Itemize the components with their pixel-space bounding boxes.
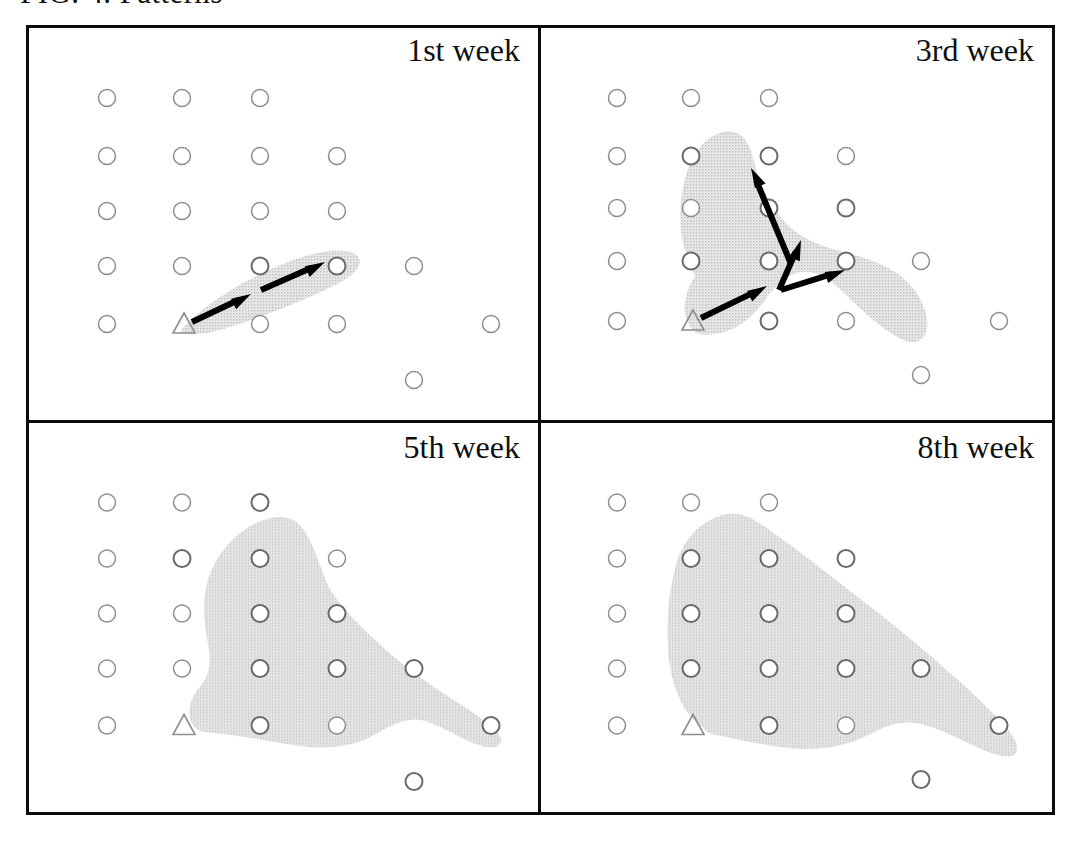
site-node-circle[interactable]	[483, 717, 500, 734]
site-node-circle[interactable]	[252, 717, 269, 734]
site-node-circle[interactable]	[838, 605, 855, 622]
site-node-circle[interactable]	[683, 148, 700, 165]
panel-3rd-week-label: 3rd week	[916, 32, 1034, 69]
panel-8th-week-canvas	[543, 425, 1052, 812]
site-node-circle[interactable]	[991, 717, 1008, 734]
site-node-circle[interactable]	[252, 550, 269, 567]
site-node-circle[interactable]	[99, 717, 116, 734]
site-node-circle[interactable]	[174, 90, 191, 107]
site-node-circle[interactable]	[329, 717, 346, 734]
site-node-circle[interactable]	[838, 200, 855, 217]
site-node-circle[interactable]	[252, 660, 269, 677]
panel-8th-week-label: 8th week	[918, 429, 1034, 466]
site-node-circle[interactable]	[913, 367, 930, 384]
panel-divider-horizontal	[29, 420, 1052, 423]
site-node-circle[interactable]	[329, 203, 346, 220]
site-node-circle[interactable]	[609, 200, 626, 217]
site-node-circle[interactable]	[99, 316, 116, 333]
site-node-circle[interactable]	[683, 660, 700, 677]
site-node-circle[interactable]	[329, 316, 346, 333]
site-node-circle[interactable]	[683, 605, 700, 622]
panel-8th-week[interactable]: 8th week	[543, 425, 1052, 812]
site-node-circle[interactable]	[174, 148, 191, 165]
spread-arrow-shaft	[781, 274, 832, 290]
site-node-circle[interactable]	[913, 660, 930, 677]
site-node-circle[interactable]	[329, 148, 346, 165]
site-node-circle[interactable]	[406, 773, 423, 790]
site-node-circle[interactable]	[838, 550, 855, 567]
site-node-circle[interactable]	[609, 494, 626, 511]
site-node-circle[interactable]	[99, 605, 116, 622]
site-node-circle[interactable]	[329, 258, 346, 275]
site-node-circle[interactable]	[761, 90, 778, 107]
site-node-circle[interactable]	[174, 258, 191, 275]
site-node-circle[interactable]	[329, 660, 346, 677]
site-node-circle[interactable]	[252, 316, 269, 333]
site-node-circle[interactable]	[252, 203, 269, 220]
figure-root: FIG. 4. Patterns 1st week 3rd week 5th w…	[0, 0, 1079, 843]
site-node-circle[interactable]	[252, 605, 269, 622]
site-node-circle[interactable]	[99, 203, 116, 220]
site-node-circle[interactable]	[609, 253, 626, 270]
site-node-circle[interactable]	[406, 258, 423, 275]
site-node-circle[interactable]	[761, 550, 778, 567]
figure-caption-clip: FIG. 4. Patterns	[0, 0, 560, 12]
site-node-circle[interactable]	[761, 148, 778, 165]
site-node-circle[interactable]	[913, 253, 930, 270]
site-node-circle[interactable]	[761, 313, 778, 330]
site-node-circle[interactable]	[838, 660, 855, 677]
site-node-circle[interactable]	[99, 148, 116, 165]
site-node-circle[interactable]	[252, 494, 269, 511]
site-node-circle[interactable]	[761, 660, 778, 677]
site-node-circle[interactable]	[609, 148, 626, 165]
site-node-circle[interactable]	[683, 200, 700, 217]
site-node-circle[interactable]	[991, 313, 1008, 330]
site-node-circle[interactable]	[838, 253, 855, 270]
site-node-circle[interactable]	[174, 550, 191, 567]
site-node-circle[interactable]	[99, 90, 116, 107]
site-node-circle[interactable]	[406, 372, 423, 389]
site-node-circle[interactable]	[609, 717, 626, 734]
site-node-circle[interactable]	[99, 258, 116, 275]
site-node-circle[interactable]	[761, 253, 778, 270]
site-node-circle[interactable]	[609, 550, 626, 567]
site-node-circle[interactable]	[99, 494, 116, 511]
site-node-circle[interactable]	[683, 494, 700, 511]
site-node-circle[interactable]	[609, 90, 626, 107]
panel-frame: 1st week 3rd week 5th week 8th week	[26, 25, 1055, 815]
site-node-circle[interactable]	[683, 253, 700, 270]
site-node-circle[interactable]	[252, 258, 269, 275]
panel-5th-week[interactable]: 5th week	[29, 425, 538, 812]
site-node-circle[interactable]	[252, 90, 269, 107]
site-node-circle[interactable]	[174, 203, 191, 220]
site-node-circle[interactable]	[761, 605, 778, 622]
panel-1st-week-label: 1st week	[407, 32, 520, 69]
site-node-circle[interactable]	[838, 148, 855, 165]
site-node-circle[interactable]	[761, 494, 778, 511]
site-node-circle[interactable]	[329, 550, 346, 567]
site-node-circle[interactable]	[99, 660, 116, 677]
site-node-circle[interactable]	[913, 771, 930, 788]
site-node-circle[interactable]	[609, 605, 626, 622]
site-node-circle[interactable]	[483, 316, 500, 333]
site-node-circle[interactable]	[174, 660, 191, 677]
site-node-circle[interactable]	[99, 550, 116, 567]
panel-5th-week-label: 5th week	[404, 429, 520, 466]
site-node-circle[interactable]	[838, 313, 855, 330]
panel-3rd-week[interactable]: 3rd week	[543, 28, 1052, 420]
site-node-circle[interactable]	[329, 605, 346, 622]
site-node-circle[interactable]	[609, 313, 626, 330]
site-node-circle[interactable]	[406, 660, 423, 677]
panel-1st-week-canvas	[29, 28, 538, 420]
site-node-circle[interactable]	[761, 717, 778, 734]
panel-3rd-week-canvas	[543, 28, 1052, 420]
site-node-circle[interactable]	[252, 148, 269, 165]
site-node-circle[interactable]	[683, 90, 700, 107]
site-node-circle[interactable]	[683, 550, 700, 567]
site-node-circle[interactable]	[609, 660, 626, 677]
site-node-circle[interactable]	[838, 717, 855, 734]
site-node-circle[interactable]	[174, 605, 191, 622]
site-node-circle[interactable]	[174, 494, 191, 511]
diffusion-region	[189, 517, 501, 747]
panel-1st-week[interactable]: 1st week	[29, 28, 538, 420]
